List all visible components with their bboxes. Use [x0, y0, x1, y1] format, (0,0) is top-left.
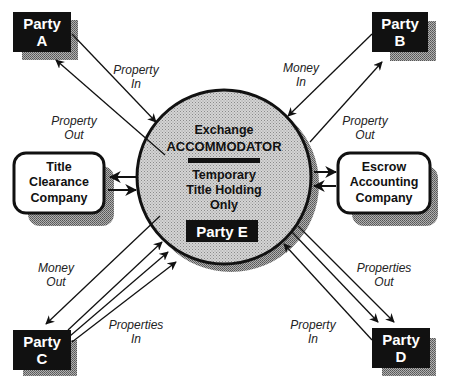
arrow-d-properties-out-1 — [292, 232, 378, 322]
arrow-c-properties-in-1 — [68, 242, 162, 330]
party-a-line2: A — [37, 32, 48, 49]
party-b-line2: B — [395, 32, 406, 49]
circle-line-temporary: Temporary — [192, 168, 256, 182]
label-b-property-out-1: Property — [342, 114, 388, 128]
title-clearance-line1: Title — [46, 160, 72, 174]
label-c-money-out-2: Out — [46, 275, 66, 289]
party-d-line2: D — [396, 348, 407, 365]
label-d-property-in-1: Property — [290, 318, 336, 332]
party-e-label: Party E — [196, 223, 248, 240]
label-c-properties-in-1: Properties — [109, 318, 164, 332]
title-clearance-company-box: Title Clearance Company — [14, 153, 114, 226]
title-clearance-line3: Company — [31, 191, 88, 205]
exchange-diagram: Exchange ACCOMMODATOR Temporary Title Ho… — [0, 0, 449, 386]
label-b-property-out-2: Out — [355, 128, 375, 142]
escrow-line3: Company — [356, 191, 413, 205]
label-b-money-in-2: In — [296, 75, 306, 89]
escrow-accounting-company-box: Escrow Accounting Company — [338, 153, 438, 226]
label-c-properties-in-2: In — [131, 332, 141, 346]
label-a-property-in-1: Property — [113, 63, 159, 77]
circle-line-title-holding: Title Holding — [186, 183, 261, 197]
party-c-box: Party C — [13, 330, 77, 376]
party-b-box: Party B — [372, 12, 436, 61]
circle-line-only: Only — [210, 198, 238, 212]
party-d-box: Party D — [372, 328, 436, 376]
label-d-properties-out-2: Out — [374, 275, 394, 289]
party-b-line1: Party — [381, 15, 419, 32]
label-d-property-in-2: In — [308, 332, 318, 346]
label-d-properties-out-1: Properties — [357, 261, 412, 275]
title-clearance-line2: Clearance — [29, 175, 89, 189]
circle-divider — [188, 158, 260, 163]
circle-line-accommodator: ACCOMMODATOR — [166, 139, 282, 154]
party-a-line1: Party — [23, 15, 61, 32]
party-d-line1: Party — [382, 331, 420, 348]
label-a-property-in-2: In — [131, 77, 141, 91]
circle-line-exchange: Exchange — [194, 123, 253, 137]
label-c-money-out-1: Money — [38, 261, 75, 275]
escrow-line1: Escrow — [362, 160, 407, 174]
party-c-line2: C — [37, 350, 48, 367]
label-a-property-out-2: Out — [64, 128, 84, 142]
escrow-line2: Accounting — [350, 175, 419, 189]
exchange-accommodator-circle: Exchange ACCOMMODATOR Temporary Title Ho… — [137, 90, 319, 272]
party-c-line1: Party — [23, 333, 61, 350]
arrow-a-property-in — [72, 34, 156, 122]
party-a-box: Party A — [13, 12, 78, 60]
label-a-property-out-1: Property — [51, 114, 97, 128]
label-b-money-in-1: Money — [283, 61, 320, 75]
